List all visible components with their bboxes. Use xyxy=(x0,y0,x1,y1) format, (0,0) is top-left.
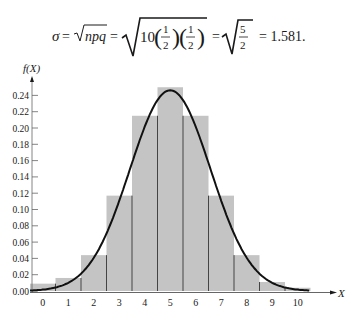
bar-3 xyxy=(107,196,133,291)
y-tick-label: 0.00 xyxy=(12,287,29,297)
binomial-histogram: 0.000.020.040.060.080.100.120.140.160.18… xyxy=(0,0,358,315)
bar-7 xyxy=(209,196,235,291)
y-tick-label: 0.02 xyxy=(12,270,29,280)
x-tick-label: 0 xyxy=(40,297,45,308)
x-tick-label: 5 xyxy=(168,297,173,308)
x-tick-label: 8 xyxy=(244,297,249,308)
x-axis-arrow-icon xyxy=(330,291,337,295)
bar-8 xyxy=(234,255,260,291)
bar-5 xyxy=(158,87,184,291)
y-tick-label: 0.22 xyxy=(12,107,29,117)
bar-1 xyxy=(56,278,82,291)
x-axis: 012345678910 xyxy=(30,291,337,309)
bar-2 xyxy=(81,255,107,291)
histogram-bars xyxy=(30,87,311,291)
y-tick-label: 0.08 xyxy=(12,221,29,231)
bar-4 xyxy=(132,116,158,291)
y-tick-label: 0.16 xyxy=(12,156,29,166)
x-tick-label: 4 xyxy=(142,297,147,308)
bar-6 xyxy=(183,116,209,291)
x-tick-label: 6 xyxy=(193,297,198,308)
y-tick-label: 0.04 xyxy=(12,254,29,264)
x-tick-label: 9 xyxy=(270,297,275,308)
y-tick-label: 0.24 xyxy=(12,91,29,101)
y-tick-label: 0.18 xyxy=(12,140,29,150)
x-tick-label: 10 xyxy=(293,297,303,308)
x-tick-label: 1 xyxy=(66,297,71,308)
y-tick-label: 0.20 xyxy=(12,124,29,134)
y-axis: 0.000.020.040.060.080.100.120.140.160.18… xyxy=(12,76,38,297)
y-axis-label: f(X) xyxy=(23,62,40,75)
y-axis-arrow-icon xyxy=(30,76,34,82)
y-tick-label: 0.12 xyxy=(12,189,29,199)
y-tick-label: 0.14 xyxy=(12,172,29,182)
x-tick-label: 3 xyxy=(117,297,122,308)
y-tick-label: 0.06 xyxy=(12,238,29,248)
y-tick-label: 0.10 xyxy=(12,205,29,215)
x-tick-label: 2 xyxy=(91,297,96,308)
x-axis-label: X xyxy=(337,287,346,299)
x-tick-label: 7 xyxy=(219,297,224,308)
